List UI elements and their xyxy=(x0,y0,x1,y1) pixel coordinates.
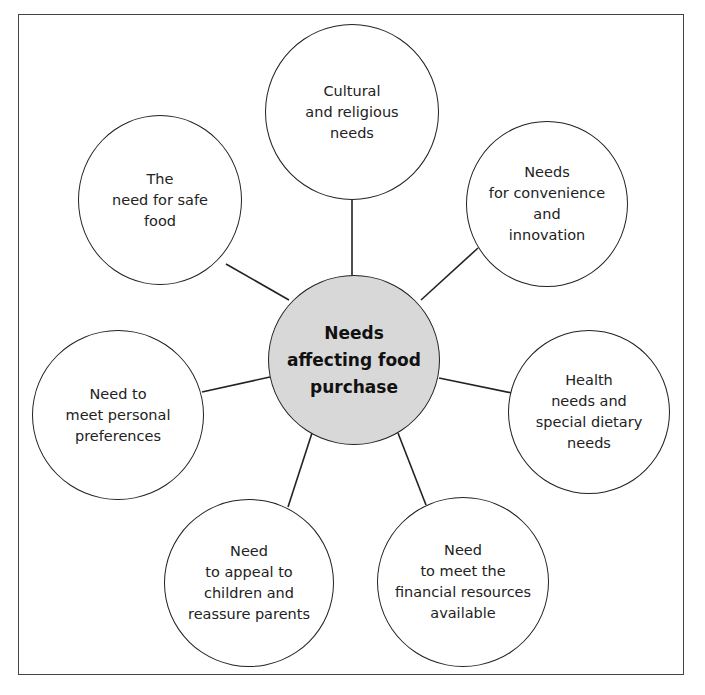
node-label: Needs for convenience and innovation xyxy=(489,162,605,246)
node-cultural: Cultural and religious needs xyxy=(265,24,439,200)
connector-preferences xyxy=(202,377,270,392)
node-label: Need to meet personal preferences xyxy=(66,384,171,447)
connector-convenience xyxy=(421,248,478,300)
node-preferences: Need to meet personal preferences xyxy=(32,330,204,500)
node-label: The need for safe food xyxy=(112,169,208,232)
node-safe-food: The need for safe food xyxy=(78,115,242,285)
node-health: Health needs and special dietary needs xyxy=(508,330,670,494)
node-label: Health needs and special dietary needs xyxy=(536,370,642,454)
connector-financial xyxy=(398,433,426,505)
connector-children xyxy=(288,433,312,507)
connector-safe-food xyxy=(226,264,289,300)
node-label: Cultural and religious needs xyxy=(305,81,398,144)
center-label: Needs affecting food purchase xyxy=(287,320,421,401)
node-label: Need to appeal to children and reassure … xyxy=(188,541,310,625)
node-children: Need to appeal to children and reassure … xyxy=(164,499,334,667)
connector-health xyxy=(439,378,512,393)
center-node: Needs affecting food purchase xyxy=(268,275,440,445)
node-financial: Need to meet the financial resources ava… xyxy=(377,497,549,667)
node-label: Need to meet the financial resources ava… xyxy=(395,540,531,624)
node-convenience: Needs for convenience and innovation xyxy=(466,121,628,287)
